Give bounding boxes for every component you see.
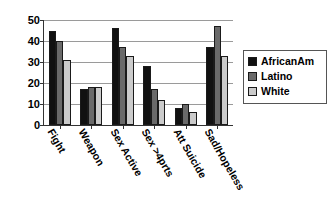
bar	[119, 47, 126, 125]
bar	[56, 41, 63, 125]
legend-label: AfricanAm	[261, 56, 314, 67]
bar-group	[202, 20, 234, 125]
bar-group	[107, 20, 139, 125]
x-category-label: Sex Active	[108, 127, 144, 178]
y-tick-label: 10	[18, 99, 40, 110]
bar	[112, 28, 119, 125]
bar	[221, 56, 228, 125]
bar	[214, 26, 221, 125]
x-category-label: Sex >4prts	[140, 127, 176, 179]
bar	[151, 89, 158, 125]
bar	[126, 56, 133, 125]
bar	[95, 87, 102, 125]
plot-area	[43, 20, 233, 126]
bar-group	[139, 20, 171, 125]
x-category-label: Weapon	[77, 127, 107, 168]
bars-layer	[44, 20, 233, 125]
legend-swatch-latino	[248, 72, 257, 81]
legend-label: Latino	[261, 71, 293, 82]
bar	[49, 31, 56, 126]
legend-swatch-white	[248, 87, 257, 96]
bar-group	[44, 20, 76, 125]
bar	[143, 66, 150, 125]
bar	[63, 60, 70, 125]
bar	[206, 47, 213, 125]
bar-group	[76, 20, 108, 125]
x-axis: FightWeaponSex ActiveSex >4prtsAtt Suici…	[43, 127, 232, 221]
bar-group	[170, 20, 202, 125]
y-axis: 50403020100	[14, 0, 40, 221]
bar	[175, 108, 182, 125]
legend-swatch-africanam	[248, 57, 257, 66]
chart-legend: AfricanAmLatinoWhite	[243, 50, 327, 104]
y-tick-mark	[40, 125, 44, 126]
x-category-label: Sad/Hopeless	[203, 127, 247, 192]
bar	[182, 104, 189, 125]
bar	[88, 87, 95, 125]
y-tick-label: 0	[18, 120, 40, 131]
y-tick-label: 40	[18, 36, 40, 47]
x-category-label: Att Suicide	[171, 127, 208, 180]
bar-chart: 50403020100 FightWeaponSex ActiveSex >4p…	[0, 0, 332, 221]
y-tick-label: 20	[18, 78, 40, 89]
bar	[80, 89, 87, 125]
legend-item: Latino	[248, 69, 322, 83]
bar	[189, 112, 196, 125]
legend-label: White	[261, 86, 290, 97]
y-tick-label: 30	[18, 57, 40, 68]
legend-item: AfricanAm	[248, 54, 322, 68]
bar	[158, 100, 165, 125]
y-tick-label: 50	[18, 15, 40, 26]
legend-item: White	[248, 84, 322, 98]
x-category-label: Fight	[45, 127, 67, 155]
